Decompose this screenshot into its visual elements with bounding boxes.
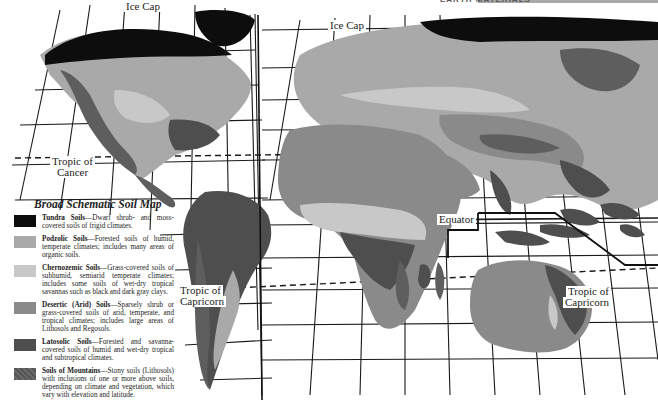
legend-item-mountains: Soils of Mountains—Stony soils (Lithosol… bbox=[14, 367, 174, 399]
southeast-asia-islands bbox=[540, 203, 645, 238]
legend-item-latosolic: Latosolic Soils—Forested and savanna-cov… bbox=[14, 338, 174, 362]
legend-swatch bbox=[14, 368, 36, 380]
legend-text: Desertic (Arid) Soils—Sparsely shrub or … bbox=[42, 301, 174, 333]
legend-text: Latosolic Soils—Forested and savanna-cov… bbox=[42, 338, 174, 362]
tropic-of-cancer-label-line2: Cancer bbox=[55, 167, 90, 178]
ice-cap-label-west: Ice Cap bbox=[124, 1, 162, 12]
legend-text: Podzolic Soils—Forested soils of humid, … bbox=[42, 235, 174, 259]
tropic-of-capricorn-west-label-line2: Capricorn bbox=[178, 296, 226, 307]
equator-label: Equator bbox=[437, 214, 476, 225]
legend-swatch bbox=[14, 339, 36, 351]
north-america bbox=[40, 29, 251, 207]
madagascar bbox=[418, 264, 431, 288]
new-guinea bbox=[495, 230, 550, 245]
tropic-of-capricorn-east-label-line2: Capricorn bbox=[563, 297, 611, 308]
legend-swatch bbox=[14, 302, 36, 314]
legend-item-name: Podzolic Soils bbox=[42, 235, 87, 243]
legend-item-tundra: Tundra Soils—Dwarf shrub- and moss-cover… bbox=[14, 214, 174, 230]
legend-item-name: Soils of Mountains bbox=[42, 367, 100, 375]
legend-swatch bbox=[14, 236, 36, 248]
legend-item-podzolic: Podzolic Soils—Forested soils of humid, … bbox=[14, 235, 174, 259]
legend-item-name: Tundra Soils bbox=[42, 214, 85, 222]
soil-legend: Broad Schematic Soil Map Tundra Soils—Dw… bbox=[14, 198, 174, 404]
legend-item-name: Latosolic Soils bbox=[42, 338, 92, 346]
legend-item-desertic: Desertic (Arid) Soils—Sparsely shrub or … bbox=[14, 301, 174, 333]
legend-item-name: Chernozemic Soils bbox=[42, 264, 100, 272]
legend-title: Broad Schematic Soil Map bbox=[34, 198, 174, 210]
legend-item-chernozemic: Chernozemic Soils—Grass-covered soils of… bbox=[14, 264, 174, 296]
legend-swatch bbox=[14, 215, 36, 227]
australia-inset-boundary bbox=[448, 213, 658, 265]
legend-swatch bbox=[14, 265, 36, 277]
legend-text: Tundra Soils—Dwarf shrub- and moss-cover… bbox=[42, 214, 174, 230]
legend-text: Chernozemic Soils—Grass-covered soils of… bbox=[42, 264, 174, 296]
ice-cap-label-east: Ice Cap bbox=[328, 20, 366, 31]
legend-item-name: Desertic (Arid) Soils bbox=[42, 301, 110, 309]
legend-text: Soils of Mountains—Stony soils (Lithosol… bbox=[42, 367, 174, 399]
